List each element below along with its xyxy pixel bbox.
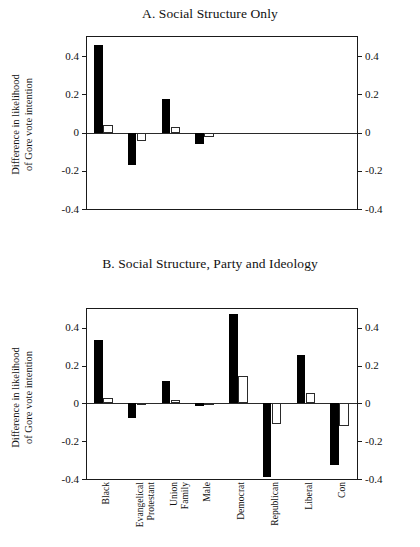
x-axis-category-label-line: Republican [269, 482, 280, 526]
panel-a-title: A. Social Structure Only [0, 6, 420, 22]
y-axis-tick [357, 209, 362, 210]
x-axis-category-label: Black [100, 482, 111, 504]
y-axis-tick [82, 94, 87, 95]
y-axis-tick-label: -0.2 [365, 165, 382, 176]
bar-series-1 [263, 403, 272, 477]
y-axis-tick [82, 209, 87, 210]
y-axis-tick [357, 328, 362, 329]
panel-b-plot-area: 0.40.40.20.200-0.2-0.2-0.4-0.4 [86, 308, 358, 480]
bar-series-2 [306, 393, 316, 404]
panel-a: A. Social Structure Only Difference in l… [0, 0, 420, 250]
bar-series-1 [128, 403, 137, 418]
x-axis-category-label-line: Black [100, 482, 111, 504]
y-axis-tick [357, 403, 362, 404]
bar-series-2 [204, 133, 214, 138]
bar-series-2 [171, 127, 181, 133]
x-axis-category-labels: BlackEvangelicalProtestantUnionFamilyMal… [86, 482, 358, 547]
bar-series-2 [137, 403, 147, 405]
x-axis-category-label: Democrat [235, 482, 246, 520]
y-axis-tick-label: 0.2 [65, 89, 79, 100]
y-axis-tick-label: 0.4 [365, 51, 379, 62]
y-axis-label-line-1: Difference in likelihood [10, 45, 23, 205]
y-axis-tick-label: -0.4 [62, 474, 79, 485]
y-axis-tick [357, 479, 362, 480]
y-axis-tick [82, 171, 87, 172]
x-axis-category-label: UnionFamily [168, 482, 190, 509]
x-axis-category-label-line: Male [201, 482, 212, 502]
y-axis-tick [82, 403, 87, 404]
y-axis-tick [357, 366, 362, 367]
x-axis-category-label-line: Family [179, 482, 190, 509]
panel-b-bars [87, 309, 357, 479]
bar-series-1 [195, 133, 204, 145]
panel-b-y-axis-label: Difference in likelihood of Gore vote in… [10, 318, 35, 478]
bar-series-1 [229, 314, 238, 404]
y-axis-tick [357, 441, 362, 442]
y-axis-tick-label: -0.4 [62, 204, 79, 215]
bar-series-2 [204, 403, 214, 405]
y-axis-tick-label: -0.4 [365, 204, 382, 215]
panel-b: B. Social Structure, Party and Ideology … [0, 250, 420, 547]
y-axis-label-line-2: of Gore vote intention [22, 318, 35, 478]
bar-series-2 [137, 133, 147, 142]
x-axis-category-label-line: Protestant [145, 482, 156, 527]
y-axis-tick-label: 0.4 [65, 51, 79, 62]
y-axis-tick [82, 56, 87, 57]
y-axis-tick-label: 0.2 [365, 360, 379, 371]
y-axis-tick-label: -0.2 [62, 436, 79, 447]
x-axis-category-label: Male [201, 482, 212, 502]
bar-series-2 [272, 403, 282, 424]
y-axis-tick-label: -0.4 [365, 474, 382, 485]
y-axis-tick-label: 0 [365, 127, 371, 138]
y-axis-tick [357, 171, 362, 172]
x-axis-category-label: Liberal [303, 482, 314, 510]
y-axis-tick [82, 441, 87, 442]
y-axis-label-line-1: Difference in likelihood [10, 318, 23, 478]
y-axis-label-line-2: of Gore vote intention [22, 45, 35, 205]
bar-series-1 [94, 45, 103, 133]
x-axis-category-label-line: Union [168, 482, 179, 509]
y-axis-tick-label: 0 [74, 127, 80, 138]
y-axis-tick-label: -0.2 [365, 436, 382, 447]
panel-a-plot-area: 0.40.40.20.200-0.2-0.2-0.4-0.4 [86, 36, 358, 210]
figure-root: A. Social Structure Only Difference in l… [0, 0, 420, 547]
y-axis-tick-label: 0 [74, 398, 80, 409]
x-axis-category-label-line: Evangelical [134, 482, 145, 527]
bar-series-2 [103, 125, 113, 133]
bar-series-1 [330, 403, 339, 465]
x-axis-category-label: Con [336, 482, 347, 498]
y-axis-tick [82, 366, 87, 367]
bar-series-2 [103, 398, 113, 403]
y-axis-tick [82, 133, 87, 134]
y-axis-tick [357, 133, 362, 134]
y-axis-tick-label: -0.2 [62, 165, 79, 176]
y-axis-tick-label: 0.2 [65, 360, 79, 371]
panel-a-bars [87, 37, 357, 209]
bar-series-2 [171, 400, 181, 404]
x-axis-category-label-line: Liberal [303, 482, 314, 510]
x-axis-category-label-line: Democrat [235, 482, 246, 520]
bar-series-2 [339, 403, 349, 425]
bar-series-1 [128, 133, 137, 165]
x-axis-category-label: Republican [269, 482, 280, 526]
y-axis-tick [82, 479, 87, 480]
bar-series-1 [162, 99, 171, 133]
bar-series-1 [162, 381, 171, 403]
y-axis-tick-label: 0 [365, 398, 371, 409]
y-axis-tick-label: 0.4 [365, 322, 379, 333]
panel-a-y-axis-label: Difference in likelihood of Gore vote in… [10, 45, 35, 205]
y-axis-tick-label: 0.2 [365, 89, 379, 100]
y-axis-tick [82, 328, 87, 329]
x-axis-category-label: EvangelicalProtestant [134, 482, 156, 527]
y-axis-tick [357, 56, 362, 57]
panel-b-title: B. Social Structure, Party and Ideology [0, 256, 420, 272]
bar-series-1 [297, 355, 306, 404]
y-axis-tick-label: 0.4 [65, 322, 79, 333]
y-axis-tick [357, 94, 362, 95]
bar-series-1 [94, 340, 103, 404]
bar-series-1 [195, 403, 204, 405]
bar-series-2 [238, 376, 248, 404]
x-axis-category-label-line: Con [336, 482, 347, 498]
